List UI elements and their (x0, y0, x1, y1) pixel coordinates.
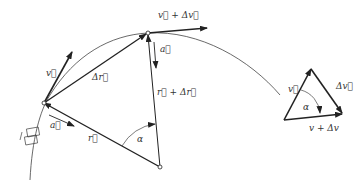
velocity-triangle: v⃗ Δv⃗ α v + Δv (284, 69, 353, 133)
a-top-arrow (154, 42, 156, 68)
label-a-left: a⃗ (50, 120, 61, 130)
delta-r-vector (44, 34, 146, 103)
r-plus-dr-vector (148, 35, 160, 167)
label-v: v⃗ (46, 68, 57, 78)
left-point (42, 101, 46, 105)
tri-label-v: v⃗ (288, 84, 299, 94)
tri-label-alpha: α (303, 102, 309, 112)
tri-v-plus-dv-vector (284, 114, 342, 120)
label-delta-r: Δr⃗ (91, 72, 108, 82)
label-r: r⃗ (88, 133, 98, 143)
top-point (146, 31, 150, 35)
label-alpha: α (137, 134, 143, 144)
kinematics-diagram: v⃗ Δr⃗ v⃗ + Δv⃗ a⃗ r⃗ + Δr⃗ a⃗ r⃗ α v⃗ Δ… (0, 0, 363, 188)
tri-label-v-plus-dv: v + Δv (309, 123, 339, 133)
tri-v-vector (284, 69, 311, 120)
center-point (158, 165, 162, 169)
tri-label-delta-v: Δv⃗ (335, 81, 353, 91)
v-plus-dv-vector (148, 28, 207, 33)
label-v-plus-dv: v⃗ + Δv⃗ (158, 10, 199, 20)
label-a-top: a⃗ (160, 44, 171, 54)
label-r-plus-dr: r⃗ + Δr⃗ (157, 87, 196, 97)
tri-delta-v-vector (311, 69, 342, 113)
